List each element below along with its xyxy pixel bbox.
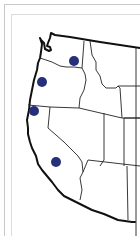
border-id-mt <box>90 41 120 88</box>
border-ut-az <box>88 160 140 166</box>
marker-washington[interactable] <box>69 56 79 66</box>
marker-oregon[interactable] <box>37 77 47 87</box>
border-id-wy <box>120 88 122 118</box>
border-nv-ut <box>100 113 104 166</box>
western-us-map <box>0 0 140 236</box>
border-nv-az <box>83 160 88 172</box>
border-ut-co <box>124 118 140 166</box>
marker-northern-california[interactable] <box>29 106 39 116</box>
border-ca-nv <box>48 107 83 200</box>
pacific-coastline <box>27 33 140 222</box>
border-or-id <box>79 68 86 108</box>
border-wa-id <box>82 41 84 68</box>
border-az-nm <box>127 166 128 220</box>
border-id-nv-ut <box>79 108 140 118</box>
marker-central-california[interactable] <box>51 157 61 167</box>
